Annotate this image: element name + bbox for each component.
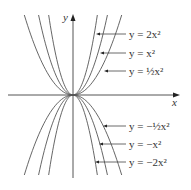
leader-arrow-icon — [96, 32, 100, 35]
curve-label-neg-2: y = −2x² — [129, 156, 167, 168]
curve-label-pos-2: y = 2x² — [129, 28, 161, 40]
leader-arrow-icon — [100, 51, 104, 54]
y-axis-label: y — [62, 11, 68, 23]
leader-arrow-icon — [104, 69, 108, 72]
curve-label-neg-1: y = −x² — [129, 138, 162, 150]
y-axis-arrow-icon — [71, 14, 76, 21]
curve-label-neg-half: y = −½x² — [129, 120, 170, 132]
curve-label-pos-half: y = ½x² — [129, 65, 164, 77]
x-axis-label: x — [171, 96, 177, 108]
curve-labels: y = 2x²y = x²y = ½x²y = −½x²y = −x²y = −… — [95, 28, 170, 168]
curve-label-pos-1: y = x² — [129, 47, 156, 59]
parabola-family-graph: y x y = 2x²y = x²y = ½x²y = −½x²y = −x²y… — [0, 0, 191, 190]
